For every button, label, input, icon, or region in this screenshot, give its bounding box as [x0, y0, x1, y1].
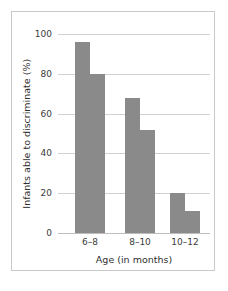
y-axis-title: Infants able to discriminate (%)	[20, 34, 34, 233]
x-tick-label-8-10: 8–10	[129, 238, 151, 247]
chart-frame: Infants able to discriminate (%) 100 80 …	[11, 11, 215, 271]
plot-area: 100 80 60 40 20 0 6–8 8–10 10–12	[58, 34, 210, 233]
bar-group-10-12-first	[170, 193, 185, 233]
bar-group-6-8-first	[75, 42, 90, 233]
bar-group-8-10-second	[140, 130, 155, 233]
x-axis-title: Age (in months)	[58, 255, 210, 265]
y-tick-label-60: 60	[41, 109, 52, 118]
bar-group-8-10-first	[125, 98, 140, 233]
x-tick-label-6-8: 6–8	[82, 238, 98, 247]
y-tick-label-20: 20	[41, 189, 52, 198]
y-tick-label-0: 0	[46, 229, 52, 238]
y-tick-label-40: 40	[41, 149, 52, 158]
y-tick-label-100: 100	[35, 30, 52, 39]
y-tick-label-80: 80	[41, 69, 52, 78]
y-axis-title-label: Infants able to discriminate (%)	[22, 59, 32, 209]
gridline-0-baseline: 0	[58, 233, 210, 234]
bar-group-10-12-second	[185, 211, 200, 233]
x-tick-label-10-12: 10–12	[171, 238, 198, 247]
bars-layer	[58, 34, 210, 233]
bar-group-6-8-second	[90, 74, 105, 233]
